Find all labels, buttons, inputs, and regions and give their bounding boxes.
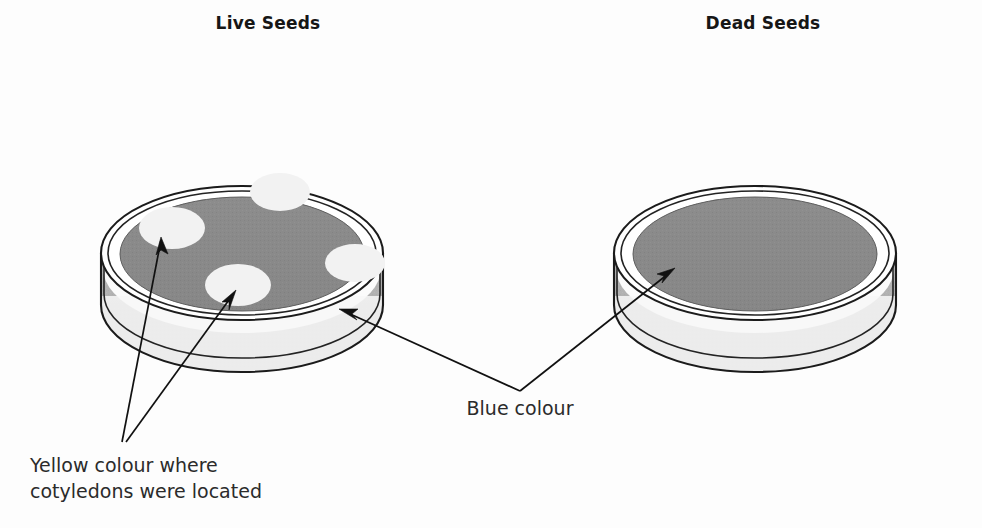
label-blue-colour: Blue colour [467,397,574,419]
label-yellow-colour-line-2: cotyledons were located [30,480,262,502]
dead-seeds-dish [614,186,896,373]
cotyledon-spot-center [205,264,271,306]
cotyledon-spot-right [325,244,385,282]
cotyledon-spot-left [139,207,205,249]
label-blue-colour-line-1: Blue colour [467,397,574,419]
label-yellow-colour-line-1: Yellow colour where [29,454,218,476]
cotyledon-spot-top [250,173,310,211]
heading-dead-seeds: Dead Seeds [706,13,821,33]
seed-viability-diagram: Live Seeds Dead Seeds [0,0,982,528]
heading-live-seeds: Live Seeds [216,13,321,33]
dead-dish-medium-texture [633,197,877,311]
